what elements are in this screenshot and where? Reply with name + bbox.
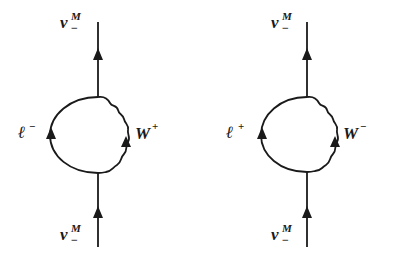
right-top-arrow-icon [302, 48, 312, 60]
right-w-boson-label: W − [343, 120, 366, 143]
left-lepton-propagator [50, 97, 98, 173]
right-bottom-neutrino-label: ν M − [271, 218, 296, 247]
left-bottom-arrow-icon [93, 206, 103, 218]
left-lepton-label: ℓ − [18, 120, 35, 142]
feynman-diagram-figure: ν M − ν M − ℓ − W + ν M − [0, 0, 407, 260]
left-top-neutrino-label: ν M − [60, 6, 85, 35]
right-bottom-arrow-icon [302, 206, 312, 218]
left-lepton-arrow-icon [46, 127, 56, 139]
left-bottom-neutrino-label: ν M − [60, 218, 85, 247]
right-w-boson-propagator [307, 97, 338, 172]
right-top-neutrino-label: ν M − [271, 6, 296, 35]
left-top-arrow-icon [93, 48, 103, 60]
left-w-boson-label: W + [135, 120, 158, 143]
left-w-boson-propagator [98, 97, 129, 173]
right-diagram: ν M − ν M − ℓ + W − [226, 6, 366, 247]
right-lepton-label: ℓ + [226, 120, 244, 142]
left-diagram: ν M − ν M − ℓ − W + [18, 6, 158, 247]
right-lepton-arrow-icon [257, 127, 267, 139]
right-lepton-propagator [261, 97, 307, 172]
